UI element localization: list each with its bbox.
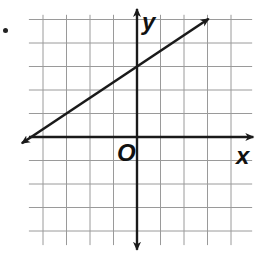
x-axis-label: x <box>236 142 249 170</box>
y-axis-label: y <box>142 8 155 36</box>
coordinate-plane <box>0 0 259 270</box>
graph-line <box>22 19 209 144</box>
origin-label: O <box>117 139 136 167</box>
